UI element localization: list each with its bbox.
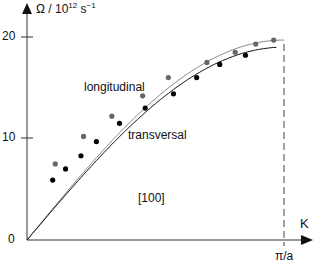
transversal-data-point <box>63 166 68 171</box>
y-axis-arrow-icon <box>22 3 32 14</box>
direction-label: [100] <box>138 191 165 205</box>
x-tick-pi-over-a: π/a <box>275 249 293 263</box>
longitudinal-data-point <box>253 42 258 47</box>
transversal-label: transversal <box>128 128 187 142</box>
longitudinal-data-point <box>81 134 86 139</box>
x-axis-label: K <box>300 216 309 231</box>
axes <box>21 3 313 246</box>
longitudinal-data-point <box>233 50 238 55</box>
transversal-data-point <box>243 53 248 58</box>
transversal-data-point <box>194 75 199 80</box>
transversal-data-point <box>143 105 148 110</box>
longitudinal-data-point <box>271 37 276 42</box>
longitudinal-data-point <box>140 93 145 98</box>
y-tick-0: 0 <box>8 232 15 246</box>
transversal-data-point <box>117 121 122 126</box>
transversal-data-point <box>78 153 83 158</box>
transversal-curve <box>27 47 276 240</box>
longitudinal-data-point <box>109 114 114 119</box>
y-axis-label: Ω / 1012 s−1 <box>36 1 96 16</box>
longitudinal-label: longitudinal <box>84 80 145 94</box>
longitudinal-data-point <box>166 75 171 80</box>
transversal-data-point <box>50 178 55 183</box>
transversal-data-point <box>217 62 222 67</box>
transversal-data-point <box>94 139 99 144</box>
y-tick-20: 20 <box>2 29 15 43</box>
longitudinal-data-point <box>204 60 209 65</box>
longitudinal-data-point <box>53 161 58 166</box>
x-axis-arrow-icon <box>301 235 313 245</box>
transversal-data-point <box>171 91 176 96</box>
y-tick-10: 10 <box>2 130 15 144</box>
